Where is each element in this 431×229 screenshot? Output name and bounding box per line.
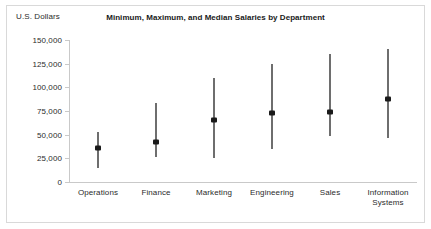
y-axis-tick-label: 100,000 [32,83,62,92]
range-line [387,49,389,138]
y-axis-tick [65,182,69,183]
y-axis-tick [65,111,69,112]
plot-area: 025,00050,00075,000100,000125,000150,000… [0,0,431,229]
y-axis-tick [65,87,69,88]
x-axis-category-label: Sales [320,188,341,198]
x-axis-category-label: Information Systems [367,188,408,208]
y-axis-line [69,40,70,183]
median-marker [327,109,333,114]
y-axis-tick [65,135,69,136]
range-line [155,103,157,157]
x-axis-category-label: Operations [78,188,118,198]
x-axis-line [69,182,417,183]
y-axis-tick [65,158,69,159]
median-marker [95,145,101,150]
y-axis-tick [65,64,69,65]
median-marker [385,96,391,101]
y-axis-tick-label: 25,000 [37,154,62,163]
y-axis-tick-label: 75,000 [37,107,62,116]
range-line [329,54,331,135]
x-axis-category-label: Marketing [196,188,232,198]
range-line [271,64,273,149]
x-axis-category-label: Engineering [250,188,294,198]
y-axis-tick [65,40,69,41]
median-marker [211,118,217,123]
median-marker [153,140,159,145]
median-marker [269,110,275,115]
y-axis-tick-label: 125,000 [32,59,62,68]
y-axis-tick-label: 0 [57,178,62,187]
chart-container: U.S. Dollars Minimum, Maximum, and Media… [0,0,431,229]
y-axis-tick-label: 150,000 [32,36,62,45]
x-axis-category-label: Finance [141,188,170,198]
y-axis-tick-label: 50,000 [37,130,62,139]
